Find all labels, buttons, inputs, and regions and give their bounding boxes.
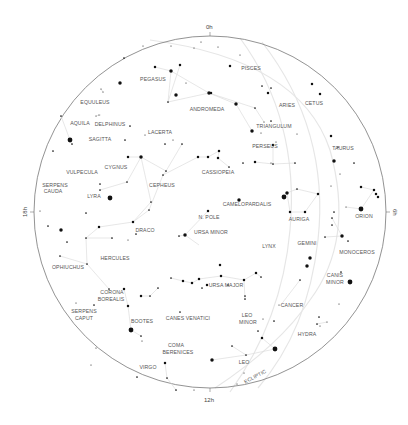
star xyxy=(165,170,167,172)
constellation-label: LACERTA xyxy=(148,129,173,135)
star xyxy=(254,107,256,109)
star xyxy=(167,101,169,103)
star xyxy=(126,181,128,183)
constellation-label: OPHIUCHUS xyxy=(52,264,84,270)
star xyxy=(127,239,128,240)
star xyxy=(59,255,61,257)
star xyxy=(149,295,151,297)
star xyxy=(305,264,309,268)
constellation-label: SAGITTA xyxy=(89,136,112,142)
hour-label-0h: 0h xyxy=(206,24,213,30)
constellation-label: PISCES xyxy=(241,65,261,71)
star xyxy=(191,282,194,285)
constellation-label: MINOR xyxy=(239,319,257,325)
star xyxy=(129,125,131,127)
star xyxy=(111,237,113,239)
star xyxy=(270,120,272,122)
constellation-lines xyxy=(60,65,374,390)
star xyxy=(127,156,130,159)
star xyxy=(154,66,157,69)
star xyxy=(338,303,339,304)
star xyxy=(359,207,364,212)
star xyxy=(99,189,101,191)
star xyxy=(234,102,238,106)
star xyxy=(261,85,263,87)
star xyxy=(345,206,346,207)
star-chart: PEGASUSPISCESEQUULEUSANDROMEDAARIESCETUS… xyxy=(0,0,408,425)
constellation-label: PEGASUS xyxy=(140,76,166,82)
hour-label-6h: 6h xyxy=(392,209,398,216)
constellation-line xyxy=(185,235,199,245)
constellation-line xyxy=(168,93,209,102)
star xyxy=(360,186,363,189)
constellation-label: ORION xyxy=(355,213,373,219)
constellation-line xyxy=(325,218,342,237)
constellation-label: CANIS xyxy=(327,272,344,278)
star xyxy=(261,337,264,340)
constellation-label: HERCULES xyxy=(100,255,129,261)
star xyxy=(319,93,322,96)
star xyxy=(200,41,201,42)
star xyxy=(139,155,143,159)
hour-ticks xyxy=(30,32,390,392)
star xyxy=(242,162,244,164)
star xyxy=(218,150,221,153)
constellation-label: BERENICES xyxy=(163,349,194,355)
star xyxy=(278,304,279,305)
star xyxy=(340,234,344,238)
constellation-label: ANDROMEDA xyxy=(190,106,225,112)
constellation-line xyxy=(100,157,141,190)
constellation-label: CAMELOPARDALIS xyxy=(223,201,272,207)
star xyxy=(98,226,101,229)
star xyxy=(85,212,87,214)
constellation-line xyxy=(199,273,261,280)
star xyxy=(179,311,181,313)
star xyxy=(166,377,168,379)
star xyxy=(273,347,278,352)
star xyxy=(124,139,126,141)
constellation-label: CASSIOPEIA xyxy=(202,169,235,175)
constellation-label: LEO xyxy=(242,312,253,318)
constellation-label: CETUS xyxy=(305,100,324,106)
star xyxy=(181,143,183,145)
constellation-line xyxy=(86,222,133,238)
constellation-label: TRIANGULUM xyxy=(256,123,291,129)
star xyxy=(243,372,244,373)
star xyxy=(185,82,186,83)
star xyxy=(172,139,173,140)
star xyxy=(164,143,166,145)
star xyxy=(164,362,167,365)
star xyxy=(318,316,320,318)
star xyxy=(141,340,142,341)
star xyxy=(270,87,272,89)
star xyxy=(236,383,237,384)
star xyxy=(142,45,143,46)
star xyxy=(59,228,63,232)
star xyxy=(273,320,275,322)
constellation-label: GEMINI xyxy=(297,240,316,246)
star xyxy=(182,280,185,283)
star xyxy=(201,287,203,289)
star xyxy=(285,191,289,195)
star xyxy=(162,174,164,176)
star xyxy=(250,129,254,133)
constellation-label: LYNX xyxy=(262,243,276,249)
constellation-label: CYGNUS xyxy=(105,164,128,170)
star xyxy=(68,138,73,143)
milky-way-band-outer xyxy=(230,38,291,392)
star xyxy=(197,156,200,159)
constellation-line xyxy=(346,187,374,209)
star xyxy=(262,318,263,319)
constellation-label: CANCER xyxy=(281,302,304,308)
star xyxy=(174,93,178,97)
hour-label-18h: 18h xyxy=(22,207,28,217)
star xyxy=(175,389,177,391)
constellation-label: VIRGO xyxy=(139,364,156,370)
star xyxy=(260,132,261,133)
star xyxy=(140,335,142,337)
constellation-label: VULPECULA xyxy=(66,169,98,175)
star xyxy=(75,302,76,303)
star xyxy=(299,279,301,281)
star xyxy=(217,157,220,160)
star xyxy=(169,69,173,73)
